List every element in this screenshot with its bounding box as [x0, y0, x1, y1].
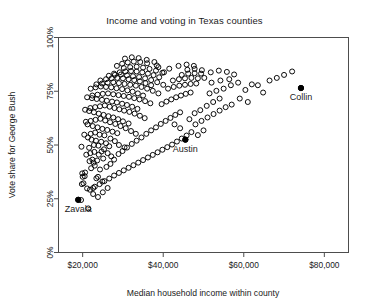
data-point — [97, 132, 102, 137]
data-point — [228, 83, 233, 88]
data-point — [100, 91, 105, 96]
data-point — [149, 78, 154, 83]
data-point — [96, 152, 101, 157]
data-point — [149, 128, 154, 133]
data-point — [217, 96, 222, 101]
data-point — [122, 81, 127, 86]
data-point — [101, 156, 106, 161]
data-point — [199, 68, 204, 73]
data-point — [110, 99, 115, 104]
data-point — [145, 71, 150, 76]
y-tick-label: 50% — [45, 136, 55, 153]
data-point — [188, 90, 193, 95]
data-point — [122, 56, 127, 61]
data-point — [104, 141, 109, 146]
data-point — [120, 101, 125, 106]
data-point — [209, 80, 214, 85]
data-point — [178, 110, 183, 115]
data-point — [97, 104, 102, 109]
data-point — [218, 78, 223, 83]
data-point — [214, 88, 219, 93]
data-point — [133, 131, 138, 136]
data-point — [160, 147, 165, 152]
data-point — [116, 81, 121, 86]
data-point — [137, 113, 142, 118]
data-point — [111, 92, 116, 97]
data-point — [91, 192, 96, 197]
point-annotation-label: Austin — [173, 144, 198, 154]
x-tick-label: $80,000 — [309, 260, 340, 270]
data-point — [183, 91, 188, 96]
data-point — [88, 86, 93, 91]
data-point — [157, 75, 162, 80]
data-point — [145, 155, 150, 160]
data-point — [141, 65, 146, 70]
data-point — [81, 181, 86, 186]
data-point — [229, 102, 234, 107]
data-point — [195, 76, 200, 81]
data-point — [91, 110, 96, 115]
data-point — [108, 120, 113, 125]
x-tick-label: $40,000 — [148, 260, 179, 270]
data-point — [173, 112, 178, 117]
data-point — [107, 144, 112, 149]
data-point — [187, 117, 192, 122]
data-point — [188, 81, 193, 86]
data-point — [121, 168, 126, 173]
data-point — [100, 126, 105, 131]
data-point — [249, 82, 254, 87]
y-tick-label: 25% — [45, 190, 55, 207]
data-point — [139, 84, 144, 89]
data-point — [194, 81, 199, 86]
data-point — [153, 125, 158, 130]
data-point — [208, 70, 213, 75]
data-point — [163, 118, 168, 123]
data-point — [255, 83, 260, 88]
x-tick-label: $20,000 — [68, 260, 99, 270]
data-point — [155, 80, 160, 85]
chart-figure: Income and voting in Texas counties $20,… — [0, 0, 369, 305]
data-point — [174, 95, 179, 100]
data-point — [237, 96, 242, 101]
data-point — [114, 63, 119, 68]
data-point — [130, 89, 135, 94]
data-point — [148, 101, 153, 106]
data-point — [109, 85, 114, 90]
data-point — [211, 100, 216, 105]
data-point — [191, 63, 196, 68]
data-point — [282, 72, 287, 77]
data-point — [216, 68, 221, 73]
data-point — [79, 144, 84, 149]
data-point — [195, 133, 200, 138]
data-point — [199, 118, 204, 123]
point-annotation-label: Zavala — [65, 204, 92, 214]
data-point — [140, 70, 145, 75]
data-point — [130, 104, 135, 109]
data-point — [105, 186, 110, 191]
data-points — [76, 55, 304, 211]
data-point — [105, 127, 110, 132]
data-point — [165, 145, 170, 150]
data-point — [211, 112, 216, 117]
data-point — [108, 161, 113, 166]
data-point — [100, 190, 105, 195]
data-point — [168, 115, 173, 120]
data-point — [126, 165, 131, 170]
data-point — [93, 105, 98, 110]
scatter-plot: $20,000$40,000$60,000$80,000 0%25%50%75%… — [0, 0, 369, 305]
highlighted-data-point — [298, 85, 303, 90]
data-point — [112, 139, 117, 144]
data-point — [134, 69, 139, 74]
data-point — [193, 122, 198, 127]
data-point — [113, 121, 118, 126]
data-point — [139, 135, 144, 140]
data-point — [107, 176, 112, 181]
point-annotation-label: Collin — [290, 92, 313, 102]
data-point — [111, 115, 116, 120]
data-point — [133, 83, 138, 88]
data-point — [102, 133, 107, 138]
data-point — [166, 86, 171, 91]
data-point — [123, 126, 128, 131]
data-point — [202, 75, 207, 80]
data-point — [129, 141, 134, 146]
